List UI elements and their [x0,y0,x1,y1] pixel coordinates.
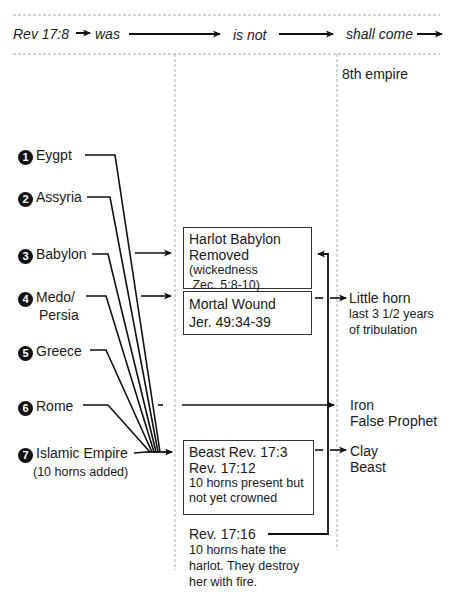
beast-box: Beast Rev. 17:3 Rev. 17:12 10 horns pres… [183,440,314,515]
number-badge-4: 4 [18,292,33,307]
empire-islamic: 7Islamic Empire (10 horns added) [18,445,128,480]
header-is-not: is not [233,27,266,43]
number-badge-7: 7 [18,448,33,463]
header-shall-come: shall come [346,26,413,42]
number-badge-3: 3 [18,249,33,264]
clay-label: Clay Beast [350,443,386,475]
empire-egypt: 1Eygpt [18,147,72,165]
rev-17-16-note: Rev. 17:16 10 horns hate the harlot. The… [189,526,299,590]
empire-assyria: 2Assyria [18,189,82,207]
header-ref: Rev 17:8 [13,26,69,42]
mortal-wound-box: Mortal Wound Jer. 49:34-39 [183,291,312,335]
eighth-empire-label: 8th empire [342,66,408,82]
number-badge-1: 1 [18,150,33,165]
number-badge-5: 5 [18,346,33,361]
empire-rome: 6Rome [18,398,73,416]
number-badge-2: 2 [18,192,33,207]
little-horn-label: Little horn last 3 1/2 years of tribulat… [349,290,434,338]
header-was: was [95,26,120,42]
empire-babylon: 3Babylon [18,246,87,264]
empire-medo-persia: 4Medo/ Persia [18,289,79,323]
iron-label: Iron False Prophet [350,397,437,429]
harlot-babylon-box: Harlot Babylon Removed (wickedness Zec. … [183,227,312,289]
number-badge-6: 6 [18,401,33,416]
empire-greece: 5Greece [18,343,82,361]
